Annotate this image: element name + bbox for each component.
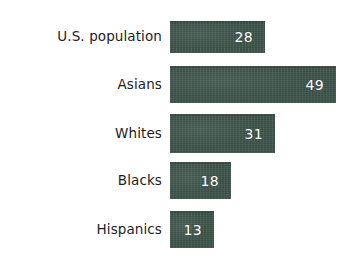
bar-track: 28 [170,21,265,53]
bar-track: 49 [170,66,336,103]
bar-row: Asians 49 [0,66,346,103]
bar-value-label: 28 [234,30,265,44]
bar-row: U.S. population 28 [0,21,346,53]
bar-value-label: 49 [305,78,336,92]
bar-row: Hispanics 13 [0,211,346,248]
bar-value-label: 18 [200,174,231,188]
bar: 31 [170,114,275,153]
bar: 49 [170,66,336,103]
bar: 28 [170,21,265,53]
bar-row: Whites 31 [0,114,346,153]
category-label: Blacks [12,174,162,188]
bar-chart: U.S. population 28 Asians 49 Whites 31 B… [0,0,346,258]
bar: 13 [170,211,214,248]
bar-track: 18 [170,162,231,199]
bar-track: 13 [170,211,214,248]
category-label: U.S. population [12,30,162,44]
bar-track: 31 [170,114,275,153]
bar-value-label: 13 [183,223,214,237]
bar-row: Blacks 18 [0,162,346,199]
bar: 18 [170,162,231,199]
bar-value-label: 31 [244,127,275,141]
category-label: Asians [12,78,162,92]
category-label: Whites [12,127,162,141]
category-label: Hispanics [12,223,162,237]
